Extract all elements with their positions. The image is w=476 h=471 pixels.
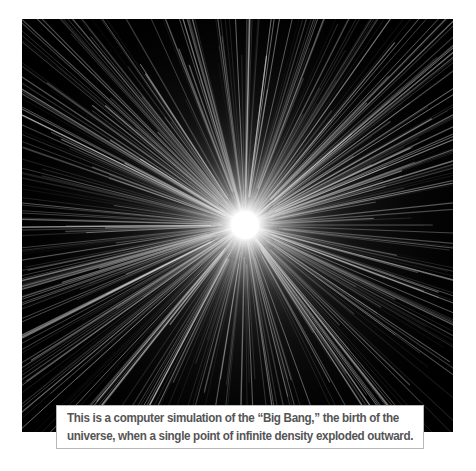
caption-line-2: universe, when a single point of infinit… <box>67 428 394 446</box>
figure-caption: This is a computer simulation of the “Bi… <box>56 405 424 449</box>
caption-line-1: This is a computer simulation of the “Bi… <box>67 410 394 428</box>
light-burst-graphic <box>22 19 453 432</box>
big-bang-simulation-image <box>22 19 453 432</box>
